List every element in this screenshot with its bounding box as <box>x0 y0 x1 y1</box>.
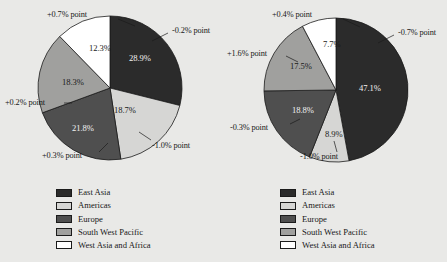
left-value-americas: 18.7% <box>114 106 136 115</box>
right-value-west-asia-and-africa: 7.7% <box>323 40 341 49</box>
right-annotation-west-asia-and-africa: +0.4% point <box>272 11 312 19</box>
right-value-americas: 8.9% <box>325 130 343 139</box>
right-annotation-east-asia: -0.7% point <box>398 29 436 37</box>
left-annotation-west-asia-and-africa: +0.7% point <box>47 11 87 19</box>
right-value-south-west-pacific: 17.5% <box>290 62 312 71</box>
right-annotation-americas: -1.0% point <box>300 153 338 161</box>
legend-swatch-south-west-pacific <box>280 228 296 236</box>
legend-item-east-asia[interactable]: East Asia <box>280 186 447 199</box>
legend-item-americas[interactable]: Americas <box>280 199 447 212</box>
left-annotation-americas: -1.0% point <box>152 142 190 150</box>
legend-swatch-americas <box>280 202 296 210</box>
left-annotation-europe: +0.3% point <box>42 152 82 160</box>
legend-item-americas[interactable]: Americas <box>56 199 226 212</box>
left-pie-wedges <box>38 16 182 160</box>
legend-label-east-asia: East Asia <box>78 188 110 197</box>
left-value-europe: 21.8% <box>72 124 94 133</box>
legend-label-east-asia: East Asia <box>302 188 334 197</box>
pie-chart-figure: +0.7% point -0.2% point -1.0% point +0.3… <box>0 0 447 262</box>
legend-label-south-west-pacific: South West Pacific <box>302 228 367 237</box>
legend-swatch-west-asia-and-africa <box>280 241 296 249</box>
legend-label-west-asia-and-africa: West Asia and Africa <box>78 241 151 250</box>
left-chart-panel: +0.7% point -0.2% point -1.0% point +0.3… <box>0 0 223 262</box>
left-pie-area: +0.7% point -0.2% point -1.0% point +0.3… <box>0 0 223 180</box>
legend-swatch-europe <box>56 215 72 223</box>
legend-label-south-west-pacific: South West Pacific <box>78 228 143 237</box>
legend-swatch-europe <box>280 215 296 223</box>
left-value-west-asia-and-africa: 12.3% <box>89 44 111 53</box>
left-value-east-asia: 28.9% <box>129 54 151 63</box>
legend-label-americas: Americas <box>302 201 335 210</box>
legend-swatch-west-asia-and-africa <box>56 241 72 249</box>
right-value-europe: 18.8% <box>292 106 314 115</box>
legend-label-americas: Americas <box>78 201 111 210</box>
legend-item-west-asia-and-africa[interactable]: West Asia and Africa <box>56 239 226 252</box>
left-annotation-south-west-pacific: +0.2% point <box>5 99 45 107</box>
right-value-east-asia: 47.1% <box>359 84 381 93</box>
left-value-south-west-pacific: 18.3% <box>62 78 84 87</box>
legend-label-europe: Europe <box>78 215 103 224</box>
legend-item-east-asia[interactable]: East Asia <box>56 186 226 199</box>
left-legend: East Asia Americas Europe South West Pac… <box>56 186 226 252</box>
legend-swatch-south-west-pacific <box>56 228 72 236</box>
legend-item-south-west-pacific[interactable]: South West Pacific <box>280 226 447 239</box>
legend-swatch-east-asia <box>280 189 296 197</box>
right-annotation-europe: -0.3% point <box>230 124 268 132</box>
right-chart-panel: +0.4% point -0.7% point -1.0% point -0.3… <box>224 0 447 262</box>
legend-label-west-asia-and-africa: West Asia and Africa <box>302 241 375 250</box>
right-annotation-south-west-pacific: +1.6% point <box>227 50 267 58</box>
legend-item-south-west-pacific[interactable]: South West Pacific <box>56 226 226 239</box>
left-annotation-east-asia: -0.2% point <box>172 27 210 35</box>
legend-swatch-americas <box>56 202 72 210</box>
right-legend: East Asia Americas Europe South West Pac… <box>280 186 447 252</box>
right-pie-area: +0.4% point -0.7% point -1.0% point -0.3… <box>224 0 447 180</box>
legend-label-europe: Europe <box>302 215 327 224</box>
legend-item-europe[interactable]: Europe <box>56 212 226 225</box>
legend-item-europe[interactable]: Europe <box>280 212 447 225</box>
legend-item-west-asia-and-africa[interactable]: West Asia and Africa <box>280 239 447 252</box>
legend-swatch-east-asia <box>56 189 72 197</box>
